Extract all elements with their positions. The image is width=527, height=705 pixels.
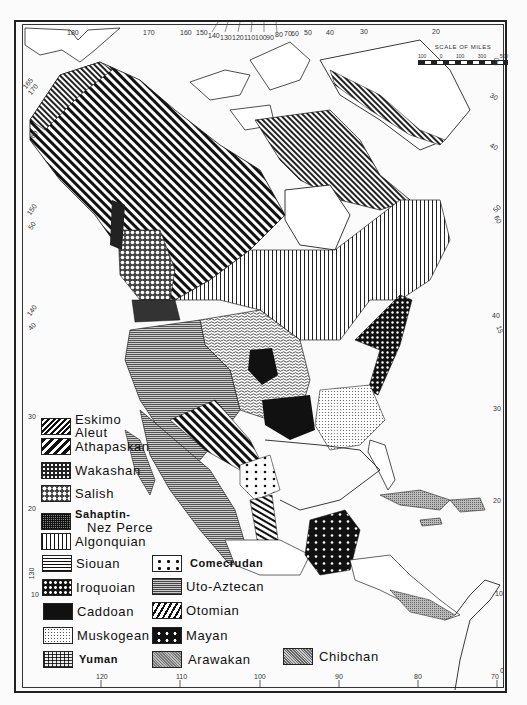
- legend-item-chibchan: Chibchan: [283, 648, 379, 665]
- legend-item-muskogean: Muskogean: [43, 627, 150, 644]
- latitude-label: 10: [31, 591, 39, 598]
- sahaptin-nez-perce-swatch: [41, 513, 71, 530]
- longitude-label: 140: [208, 32, 220, 39]
- legend-item-mayan: Mayan: [152, 627, 228, 644]
- longitude-label: 80: [414, 673, 422, 680]
- latitude-label: 30: [493, 405, 501, 412]
- longitude-label: 70: [491, 673, 499, 680]
- language-map: [0, 0, 527, 705]
- muskogean-swatch: [43, 627, 73, 644]
- legend-item-uto-aztecan: Uto-Aztecan: [152, 578, 264, 595]
- legend-item-otomian: Otomian: [152, 602, 239, 619]
- legend-label: Otomian: [186, 604, 239, 617]
- longitude-label: 160: [180, 29, 192, 36]
- algonquian-swatch: [41, 533, 71, 550]
- scale-tick: 300: [478, 53, 486, 59]
- longitude-label: 170: [143, 29, 155, 36]
- legend-item-iroquoian: Iroquoian: [42, 579, 136, 596]
- longitude-label: 100: [254, 673, 266, 680]
- legend-item-yuman: Yuman: [43, 651, 118, 668]
- legend-item-salish: Salish: [41, 485, 114, 502]
- wakashan-swatch: [41, 462, 71, 479]
- longitude-label: 20: [432, 28, 440, 35]
- otomian-swatch: [152, 602, 182, 619]
- longitude-label: 130: [28, 568, 35, 580]
- scale-tick: 100: [456, 53, 464, 59]
- legend-label: Chibchan: [319, 650, 379, 663]
- legend-label: Comecrudan: [190, 557, 263, 570]
- legend-item-wakashan: Wakashan: [41, 462, 141, 479]
- legend-item-eskimo-aleut: Eskimo Aleut: [41, 413, 121, 439]
- caddoan-swatch: [43, 603, 73, 620]
- legend-item-arawakan: Arawakan: [152, 651, 251, 668]
- arawakan-swatch: [152, 651, 182, 668]
- scale-tick: 100: [418, 53, 426, 59]
- latitude-label: 30: [28, 413, 36, 420]
- scale-title: SCALE OF MILES: [418, 44, 508, 50]
- legend-label: Muskogean: [77, 629, 150, 642]
- longitude-label: 120: [96, 673, 108, 680]
- uto-aztecan-swatch: [152, 578, 182, 595]
- yuman-swatch: [43, 651, 73, 668]
- latitude-label: 40: [492, 312, 500, 319]
- latitude-label: 20: [493, 497, 501, 504]
- legend-item-sahaptin-nez-perce: Sahaptin- Nez Perce: [41, 508, 153, 534]
- longitude-label: 110: [244, 34, 255, 41]
- longitude-label: 150: [196, 29, 208, 36]
- longitude-label: 100: [255, 34, 267, 41]
- legend-label: Athapaskan: [75, 440, 150, 453]
- latitude-label: 10: [495, 590, 503, 597]
- comecrudan-swatch: [152, 555, 182, 572]
- longitude-label: 50: [304, 29, 312, 36]
- mayan-swatch: [152, 627, 182, 644]
- longitude-label: 40: [326, 29, 334, 36]
- legend-label: Wakashan: [75, 464, 141, 477]
- legend-label: Iroquoian: [76, 581, 136, 594]
- longitude-label: 180: [67, 29, 79, 36]
- salish-swatch: [41, 485, 71, 502]
- legend-item-algonquian: Algonquian: [41, 533, 146, 550]
- scale-tick: 500: [500, 53, 508, 59]
- legend-item-athapaskan: Athapaskan: [41, 438, 150, 455]
- legend-label: Uto-Aztecan: [186, 580, 264, 593]
- longitude-label: 30: [360, 28, 368, 35]
- longitude-label: 90: [266, 34, 274, 41]
- legend-label: Arawakan: [188, 653, 251, 666]
- legend-item-comecrudan: Comecrudan: [152, 555, 263, 572]
- scale-tick: 0: [440, 53, 443, 59]
- chibchan-swatch: [283, 648, 313, 665]
- longitude-label: 60: [291, 30, 299, 37]
- athapaskan-swatch: [41, 438, 71, 455]
- longitude-label: 110: [176, 673, 187, 680]
- longitude-label: 120: [232, 34, 244, 41]
- legend-label: Mayan: [186, 629, 228, 642]
- legend-item-siouan: Siouan: [42, 555, 120, 572]
- longitude-label: 80: [275, 31, 283, 38]
- iroquoian-swatch: [42, 579, 72, 596]
- legend-label: Salish: [75, 487, 114, 500]
- legend-label: Caddoan: [77, 605, 134, 618]
- latitude-label: 20: [28, 505, 36, 512]
- legend-label: Algonquian: [75, 535, 146, 548]
- siouan-swatch: [42, 555, 72, 572]
- longitude-label: 90: [335, 673, 343, 680]
- legend-label: Yuman: [79, 653, 118, 666]
- eskimo-aleut-swatch: [41, 418, 71, 435]
- latitude-label: 0: [500, 667, 504, 674]
- legend-item-caddoan: Caddoan: [43, 603, 134, 620]
- legend-label: Siouan: [76, 557, 120, 570]
- longitude-label: 130: [220, 34, 232, 41]
